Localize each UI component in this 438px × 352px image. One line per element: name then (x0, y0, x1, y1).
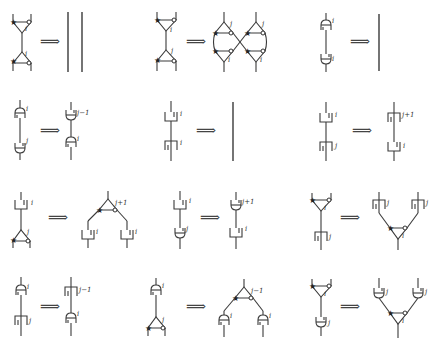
svg-text:i: i (403, 142, 405, 150)
svg-text:j: j (228, 20, 233, 28)
svg-text:i: i (402, 232, 404, 240)
rule-6-rhs: j+1 i (388, 102, 415, 161)
implies-arrow: ⟹ (340, 298, 360, 314)
implies-arrow: ⟹ (40, 33, 60, 49)
svg-text:i: i (269, 312, 271, 320)
implies-arrow: ⟹ (48, 209, 68, 225)
svg-text:★: ★ (212, 29, 219, 38)
svg-text:i: i (332, 55, 334, 63)
svg-text:j−1: j−1 (75, 109, 90, 117)
svg-text:★: ★ (10, 18, 17, 27)
rule-4-lhs: i j (15, 100, 29, 160)
svg-text:★: ★ (244, 29, 251, 38)
svg-text:j: j (384, 288, 389, 296)
rule-4-rhs: j−1 i (66, 102, 90, 160)
rule-9-lhs: ★ i j (309, 193, 332, 250)
svg-text:i: i (324, 204, 326, 212)
svg-text:i: i (25, 25, 27, 33)
svg-text:i: i (77, 310, 79, 318)
rule-7-rhs: j+1 ★ i i (82, 191, 137, 248)
implies-arrow: ⟹ (350, 33, 370, 49)
svg-text:i: i (230, 312, 232, 320)
svg-text:★: ★ (10, 236, 17, 245)
implies-arrow: ⟹ (40, 298, 60, 314)
svg-text:j+1: j+1 (400, 111, 415, 119)
implies-arrow: ⟹ (200, 209, 220, 225)
rule-10-rhs: j−1 i (65, 277, 92, 336)
svg-text:i: i (162, 282, 164, 290)
rule-7-lhs: i ★ j (10, 192, 33, 248)
svg-text:j−1: j−1 (77, 286, 92, 294)
svg-text:j: j (423, 288, 428, 296)
svg-text:★: ★ (212, 47, 219, 56)
svg-text:★: ★ (309, 196, 316, 205)
rule-12-lhs: ★ i j (309, 279, 331, 336)
svg-text:j: j (333, 142, 338, 150)
svg-text:i: i (335, 111, 337, 119)
svg-text:★: ★ (96, 206, 103, 215)
svg-text:★: ★ (154, 56, 161, 65)
svg-text:★: ★ (154, 16, 161, 25)
svg-text:j: j (385, 199, 390, 207)
rule-8-lhs: i j (174, 191, 191, 249)
svg-text:★: ★ (309, 282, 316, 291)
svg-text:i: i (96, 228, 98, 236)
svg-text:j: j (25, 228, 30, 236)
svg-text:j+1: j+1 (240, 198, 255, 206)
svg-text:★: ★ (10, 57, 17, 66)
svg-text:★: ★ (387, 309, 394, 318)
rule-3-lhs: i i (321, 13, 334, 72)
svg-text:j: j (27, 317, 32, 325)
svg-text:i: i (180, 139, 182, 147)
rule-10-lhs: i j (15, 277, 32, 336)
svg-text:★: ★ (232, 294, 239, 303)
rule-1-lhs: ★ i ★ i (10, 14, 31, 71)
svg-text:i: i (27, 283, 29, 291)
rewrite-rules-diagram: ★ i ★ i ⟹ ★ i ★ j ⟹ j ★ (0, 0, 438, 352)
rule-2-lhs: ★ i ★ j (154, 12, 176, 71)
implies-arrow: ⟹ (196, 122, 216, 138)
svg-text:i: i (77, 135, 79, 143)
implies-arrow: ⟹ (352, 122, 372, 138)
svg-text:j: j (326, 319, 331, 327)
svg-text:i: i (260, 56, 262, 64)
svg-text:i: i (402, 317, 404, 325)
rule-11-lhs: i ★ j (145, 278, 165, 336)
svg-text:i: i (228, 56, 230, 64)
rule-6-lhs: i j (320, 102, 338, 161)
svg-text:i: i (332, 17, 334, 25)
rule-9-rhs: j j ★ i (373, 192, 429, 250)
svg-text:i: i (25, 50, 27, 58)
implies-arrow: ⟹ (340, 209, 360, 225)
rule-5-lhs: i i (165, 101, 182, 161)
svg-text:j−1: j−1 (249, 287, 264, 295)
svg-text:j+1: j+1 (113, 199, 128, 207)
svg-text:★: ★ (387, 224, 394, 233)
rule-12-rhs: j j ★ i (374, 278, 428, 338)
implies-arrow: ⟹ (40, 122, 60, 138)
svg-text:i: i (31, 199, 33, 207)
svg-text:i: i (245, 225, 247, 233)
svg-text:i: i (189, 197, 191, 205)
svg-text:i: i (324, 290, 326, 298)
svg-text:i: i (135, 228, 137, 236)
svg-text:j: j (260, 20, 265, 28)
svg-text:i: i (170, 26, 172, 34)
svg-text:★: ★ (145, 324, 152, 333)
implies-arrow: ⟹ (186, 33, 206, 49)
rule-8-rhs: j+1 i (230, 192, 255, 249)
rule-11-rhs: j−1 ★ i i (219, 279, 271, 337)
svg-text:j: j (424, 199, 429, 207)
svg-text:j: j (327, 233, 332, 241)
svg-text:i: i (180, 110, 182, 118)
svg-text:i: i (26, 105, 28, 113)
rule-2-rhs: j ★ j ★ ★ i ★ i (212, 12, 267, 72)
implies-arrow: ⟹ (186, 298, 206, 314)
rule-1-rhs (68, 12, 82, 72)
